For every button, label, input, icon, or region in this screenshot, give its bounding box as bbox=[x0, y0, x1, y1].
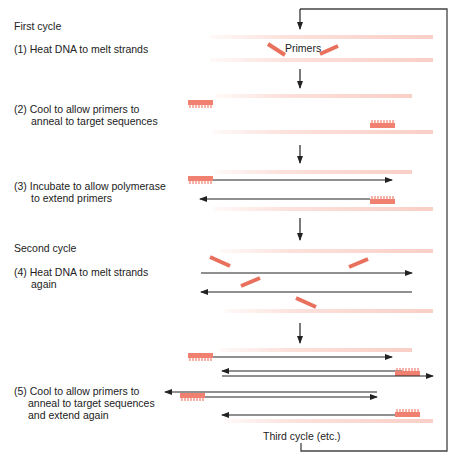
step-2-diagram bbox=[188, 94, 433, 134]
pcr-diagram: Primers bbox=[0, 0, 457, 459]
template-strand-bottom bbox=[210, 58, 433, 62]
step-5-diagram: Third cycle (etc.) bbox=[165, 348, 433, 442]
step-4-diagram bbox=[201, 249, 433, 313]
free-primer-right bbox=[320, 46, 338, 54]
step-1-diagram: Primers bbox=[210, 35, 433, 62]
step-3-diagram bbox=[188, 170, 433, 211]
primers-label: Primers bbox=[285, 42, 321, 54]
cycle-loop-line bbox=[300, 9, 447, 451]
third-cycle-label: Third cycle (etc.) bbox=[263, 430, 341, 442]
free-primer-left bbox=[268, 44, 285, 55]
template-strand-top bbox=[210, 35, 433, 39]
